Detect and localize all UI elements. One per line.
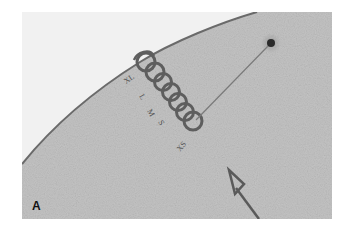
- target-dot: [267, 39, 275, 47]
- figure-image: XL L M S XS: [22, 12, 332, 219]
- figure-panel: XL L M S XS A: [22, 12, 332, 219]
- panel-label: A: [32, 199, 41, 213]
